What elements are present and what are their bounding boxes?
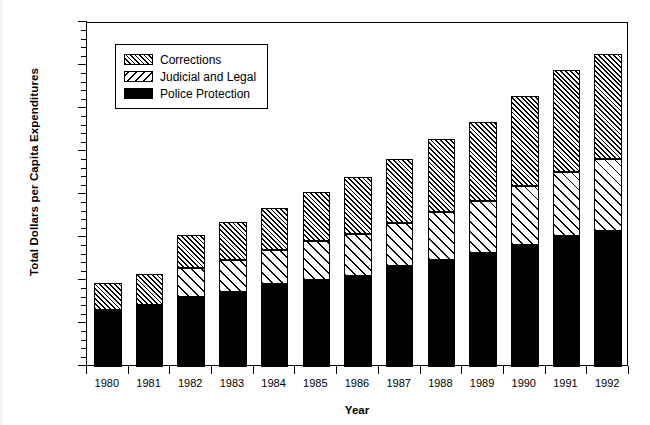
legend-item-label: Corrections — [160, 54, 221, 66]
bar-segment[interactable] — [594, 159, 622, 231]
x-axis-tick — [586, 366, 587, 374]
bar-segment[interactable] — [344, 276, 372, 367]
bar-group[interactable] — [511, 23, 539, 367]
page-edge-artifact — [0, 0, 3, 425]
x-axis-tick — [420, 366, 421, 374]
bar-segment[interactable] — [386, 159, 414, 223]
x-axis-tick — [378, 366, 379, 374]
legend-swatch-icon — [124, 54, 153, 65]
bar-group[interactable] — [553, 23, 581, 367]
bar-segment[interactable] — [553, 236, 581, 367]
bar-segment[interactable] — [261, 284, 289, 367]
x-axis-tick — [461, 366, 462, 374]
bar-segment[interactable] — [511, 96, 539, 186]
x-axis-tick — [86, 366, 87, 374]
bar-segment[interactable] — [177, 235, 205, 269]
bar-segment[interactable] — [428, 139, 456, 212]
bar-segment[interactable] — [136, 305, 164, 367]
x-axis-tick — [253, 366, 254, 374]
bar-segment[interactable] — [469, 201, 497, 253]
bar-segment[interactable] — [94, 283, 122, 311]
bar-segment[interactable] — [386, 266, 414, 367]
bar-group[interactable] — [428, 23, 456, 367]
bar-segment[interactable] — [428, 212, 456, 260]
bar-segment[interactable] — [219, 260, 247, 292]
bar-segment[interactable] — [177, 297, 205, 367]
x-axis-tick — [545, 366, 546, 374]
bar-segment[interactable] — [303, 280, 331, 367]
bar-group[interactable] — [594, 23, 622, 367]
bar-segment[interactable] — [303, 192, 331, 241]
bar-segment[interactable] — [594, 231, 622, 367]
x-axis-tick — [628, 366, 629, 374]
bar-segment[interactable] — [261, 250, 289, 284]
bar-segment[interactable] — [303, 241, 331, 280]
x-axis-tick — [294, 366, 295, 374]
bar-segment[interactable] — [511, 186, 539, 244]
x-axis-tick — [211, 366, 212, 374]
bar-segment[interactable] — [469, 122, 497, 201]
bar-group[interactable] — [386, 23, 414, 367]
bar-segment[interactable] — [219, 222, 247, 261]
x-axis-tick-label: 1992 — [577, 378, 637, 389]
legend-item-label: Police Protection — [160, 88, 250, 100]
legend-item-label: Judicial and Legal — [160, 71, 256, 83]
bar-group[interactable] — [469, 23, 497, 367]
x-axis-tick — [169, 366, 170, 374]
bar-segment[interactable] — [469, 253, 497, 367]
chart-legend: CorrectionsJudicial and LegalPolice Prot… — [115, 44, 268, 109]
bar-segment[interactable] — [219, 292, 247, 367]
bar-group[interactable] — [303, 23, 331, 367]
bar-segment[interactable] — [177, 268, 205, 297]
y-axis-title: Total Dollars per Capita Expenditures — [28, 22, 40, 322]
bar-segment[interactable] — [136, 274, 164, 305]
bar-group[interactable] — [344, 23, 372, 367]
bar-segment[interactable] — [344, 234, 372, 276]
bar-segment[interactable] — [386, 223, 414, 267]
bar-segment[interactable] — [94, 310, 122, 367]
legend-swatch-icon — [124, 71, 153, 82]
bar-segment[interactable] — [553, 70, 581, 171]
x-axis-title: Year — [86, 404, 628, 416]
bar-segment[interactable] — [261, 208, 289, 250]
stacked-bar-chart: Total Dollars per Capita Expenditures 05… — [0, 0, 650, 425]
legend-item[interactable]: Police Protection — [124, 85, 256, 102]
bar-segment[interactable] — [428, 260, 456, 367]
legend-item[interactable]: Corrections — [124, 51, 256, 68]
x-axis-tick — [503, 366, 504, 374]
x-axis-tick — [336, 366, 337, 374]
bar-segment[interactable] — [344, 177, 372, 234]
bar-segment[interactable] — [553, 172, 581, 237]
x-axis-tick — [128, 366, 129, 374]
legend-item[interactable]: Judicial and Legal — [124, 68, 256, 85]
bar-segment[interactable] — [594, 54, 622, 159]
bar-segment[interactable] — [511, 245, 539, 367]
legend-swatch-icon — [124, 88, 153, 99]
